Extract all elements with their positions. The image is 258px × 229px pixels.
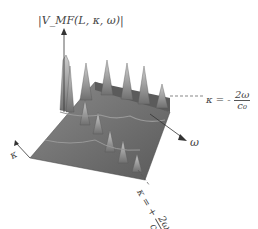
annotation-prefix: κ = - xyxy=(206,94,231,105)
z-axis-label: |V_MF(L, κ, ω)| xyxy=(38,14,124,27)
omega-axis-label: ω xyxy=(190,136,199,149)
surface-plot-figure: |V_MF(L, κ, ω)| ω κ κ = - 2ω c₀ κ = + 2ω… xyxy=(0,0,258,229)
z-axis-arrow xyxy=(61,28,67,35)
fraction-denominator: c₀ xyxy=(237,101,247,111)
fraction: 2ω c₀ xyxy=(234,90,251,111)
upper-line-annotation: κ = - 2ω c₀ xyxy=(206,90,250,111)
